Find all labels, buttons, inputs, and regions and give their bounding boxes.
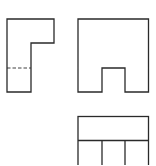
front-view-outline bbox=[78, 19, 149, 92]
side-view-outline bbox=[7, 19, 54, 92]
front-view bbox=[78, 19, 149, 92]
projection-drawing bbox=[0, 0, 156, 165]
top-view bbox=[78, 117, 149, 166]
side-view bbox=[7, 19, 54, 92]
